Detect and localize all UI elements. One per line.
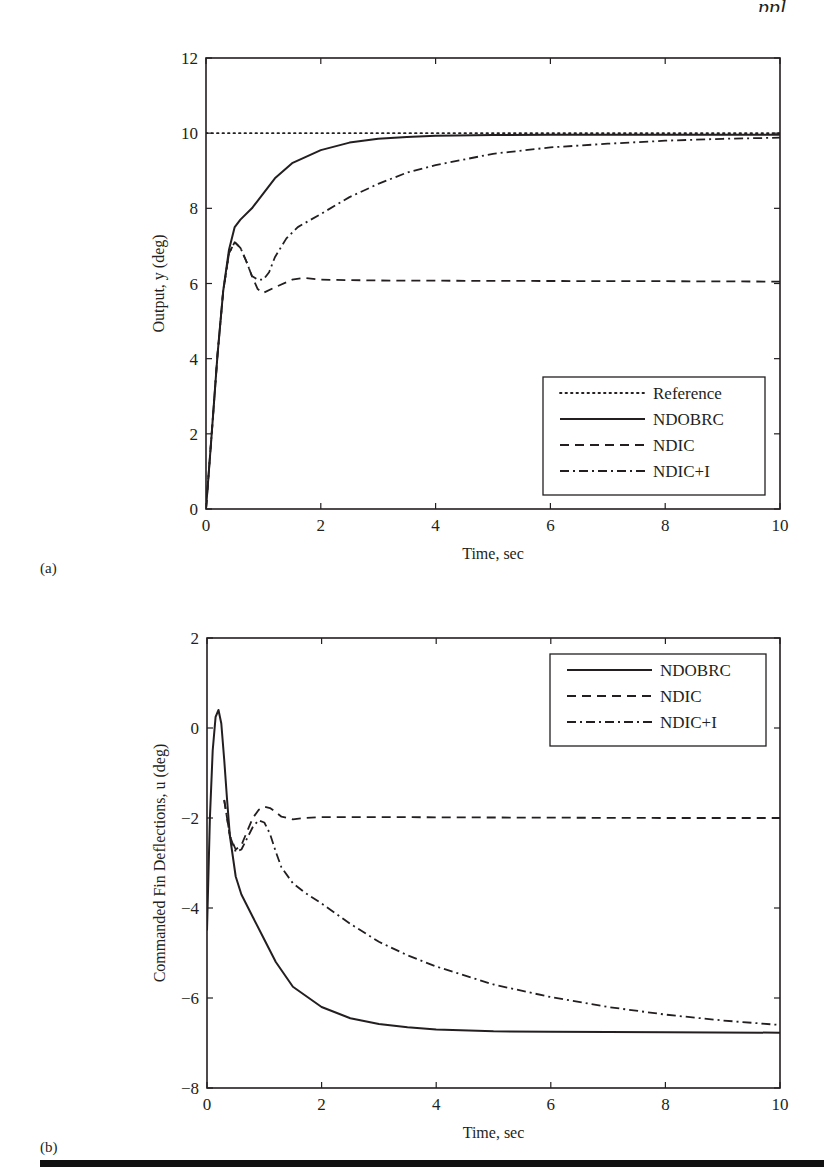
- x-tick-label: 6: [547, 1095, 556, 1114]
- bottom-rule: [40, 1160, 824, 1167]
- x-tick-label: 8: [661, 516, 670, 535]
- legend: ReferenceNDOBRCNDICNDIC+I: [543, 377, 765, 495]
- y-tick-label: −4: [181, 899, 200, 918]
- x-tick-label: 10: [772, 1095, 789, 1114]
- y-tick-label: 10: [181, 124, 198, 143]
- legend-entry-label: NDIC+I: [660, 713, 717, 732]
- y-tick-label: 12: [181, 49, 198, 68]
- legend-entry-label: NDIC: [660, 687, 702, 706]
- series-ndic: [224, 800, 780, 850]
- chart-fin-deflections: 0246810−8−6−4−202Time, secCommanded Fin …: [40, 629, 789, 1156]
- y-tick-label: 8: [190, 199, 199, 218]
- y-tick-label: −6: [181, 989, 199, 1008]
- x-tick-label: 0: [202, 516, 211, 535]
- x-tick-label: 0: [203, 1095, 212, 1114]
- x-tick-label: 8: [661, 1095, 670, 1114]
- figure: 0246810024681012Time, secOutput, y (deg)…: [0, 0, 824, 1173]
- legend-entry-label: NDOBRC: [660, 661, 731, 680]
- legend-entry-label: NDIC: [653, 436, 695, 455]
- legend-entry-label: NDIC+I: [653, 462, 710, 481]
- y-tick-label: −8: [181, 1079, 199, 1098]
- y-tick-label: 4: [190, 350, 199, 369]
- y-tick-label: 0: [191, 719, 200, 738]
- x-axis-label: Time, sec: [463, 1124, 525, 1141]
- series-ndic-i: [224, 800, 780, 1025]
- panel-label: (a): [40, 560, 57, 577]
- legend: NDOBRCNDICNDIC+I: [550, 654, 766, 746]
- x-tick-label: 6: [546, 516, 555, 535]
- chart-output-response: 0246810024681012Time, secOutput, y (deg)…: [40, 49, 789, 577]
- x-tick-label: 10: [772, 516, 789, 535]
- legend-entry-label: Reference: [653, 384, 722, 403]
- y-tick-label: 0: [190, 500, 199, 519]
- y-tick-label: 2: [190, 425, 199, 444]
- x-tick-label: 2: [317, 1095, 326, 1114]
- y-tick-label: 2: [191, 629, 200, 648]
- panel-label: (b): [40, 1139, 58, 1156]
- y-axis-label: Output, y (deg): [150, 234, 168, 332]
- x-tick-label: 2: [317, 516, 326, 535]
- legend-entry-label: NDOBRC: [653, 410, 724, 429]
- y-axis-label: Commanded Fin Deflections, u (deg): [151, 744, 169, 983]
- x-axis-label: Time, sec: [462, 545, 524, 562]
- x-tick-label: 4: [432, 1095, 441, 1114]
- x-tick-label: 4: [431, 516, 440, 535]
- y-tick-label: −2: [181, 809, 199, 828]
- y-tick-label: 6: [190, 275, 199, 294]
